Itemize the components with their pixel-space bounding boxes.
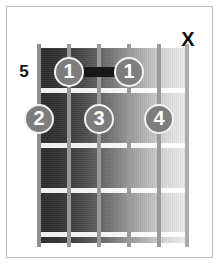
finger-dot-1-string-3: 1 [114,57,144,87]
fretboard: 1 1 2 3 4 [38,48,188,243]
finger-dot-4-string-2: 4 [144,104,174,134]
string-1 [185,44,189,247]
fret-line [38,143,188,148]
fret-position-label: 5 [14,62,34,82]
finger-dot-1-string-5: 1 [54,57,84,87]
string-2 [157,44,161,247]
fret-line [38,88,188,93]
finger-dot-3-string-4: 3 [84,104,114,134]
string-6 [37,44,41,247]
chord-diagram-screenshot: 5 X 1 1 2 3 4 [0,0,221,266]
fret-line [38,232,188,237]
fret-line [38,188,188,193]
finger-dot-2-string-6: 2 [24,104,54,134]
